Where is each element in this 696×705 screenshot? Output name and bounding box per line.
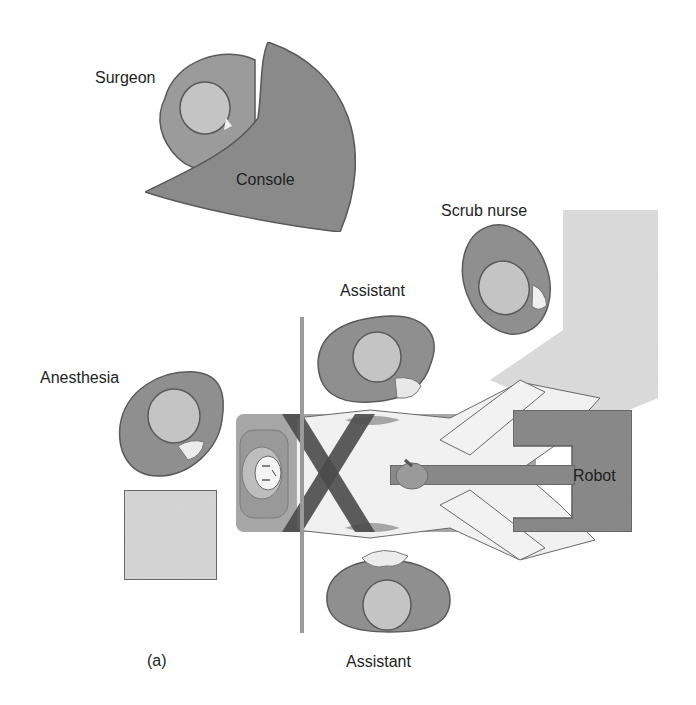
anesthesia-figure bbox=[120, 372, 224, 476]
panel-label: (a) bbox=[147, 653, 167, 669]
label-anesthesia: Anesthesia bbox=[40, 370, 119, 386]
anesthesia-cart bbox=[124, 490, 217, 580]
or-layout-diagram bbox=[0, 0, 696, 705]
assistant-bottom-figure bbox=[327, 550, 450, 632]
sterile-boundary-line bbox=[300, 317, 304, 633]
scrub-nurse-figure bbox=[448, 213, 565, 347]
label-surgeon: Surgeon bbox=[95, 70, 156, 86]
label-assistant-bottom: Assistant bbox=[346, 654, 411, 670]
assistant-top-figure bbox=[318, 316, 434, 402]
label-assistant-top: Assistant bbox=[340, 283, 405, 299]
label-robot: Robot bbox=[573, 468, 616, 484]
label-scrub-nurse: Scrub nurse bbox=[441, 203, 527, 219]
label-console: Console bbox=[236, 172, 295, 188]
